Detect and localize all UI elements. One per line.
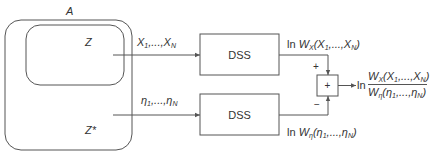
dss-block-top-label: DSS <box>228 49 251 61</box>
connector-bottom <box>279 96 328 115</box>
inner-set-label: Z <box>84 36 93 48</box>
inner-set-box <box>26 25 124 85</box>
input-label-bottom: η1,...,ηN <box>141 94 178 107</box>
output-label-bottom: ln Wη(η1,...,ηN) <box>287 126 357 140</box>
output-label-top: ln WX(X1,...,XN) <box>287 38 360 51</box>
minus-sign: − <box>314 99 320 110</box>
diagram-canvas: A Z Z* X1,...,XN η1,...,ηN DSS DSS ln WX… <box>0 0 432 156</box>
plus-sign: + <box>313 61 319 72</box>
connector-top <box>279 55 328 75</box>
outer-set-label: A <box>65 5 73 17</box>
dss-block-bottom-label: DSS <box>228 109 251 121</box>
result-denominator: Wη(η1,...,ηN) <box>368 86 426 100</box>
result-numerator: WX(X1,...,XN) <box>368 70 430 83</box>
result-prefix: ln <box>357 79 366 91</box>
complement-set-label: Z* <box>84 124 97 136</box>
input-label-top: X1,...,XN <box>136 36 177 49</box>
summer-symbol: + <box>325 80 331 91</box>
